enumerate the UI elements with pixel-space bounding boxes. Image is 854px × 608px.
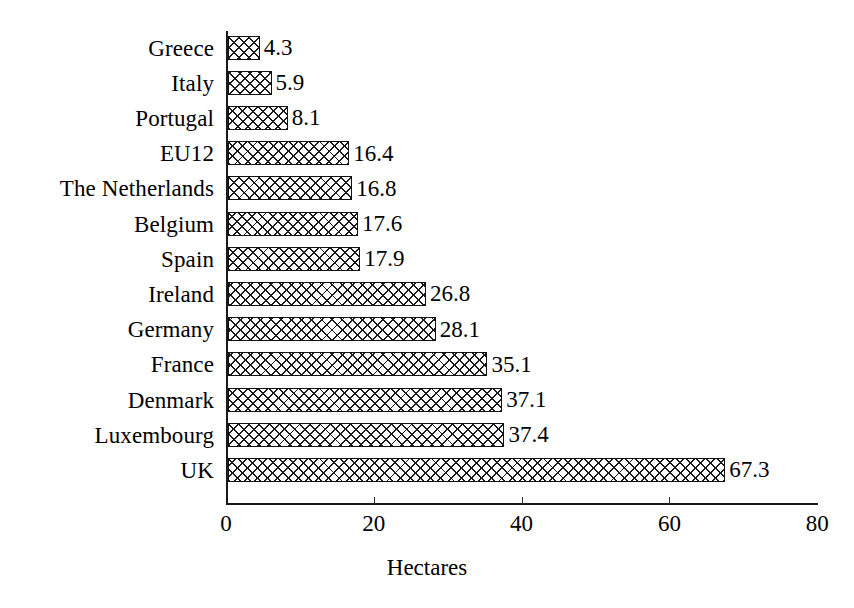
category-label: Greece <box>148 36 214 59</box>
bar-row: UK67.3 <box>0 455 854 484</box>
category-label: Spain <box>161 247 214 270</box>
category-label: The Netherlands <box>60 177 214 200</box>
x-axis-tick-label: 40 <box>510 512 533 535</box>
bar-value-label: 37.4 <box>508 423 548 446</box>
bar-value-label: 28.1 <box>440 318 480 341</box>
bar <box>228 176 352 200</box>
bar-with-value: 8.1 <box>228 106 321 130</box>
bar-value-label: 17.9 <box>364 247 404 270</box>
category-label: Luxembourg <box>95 423 214 446</box>
bar-row: France35.1 <box>0 350 854 379</box>
category-label: Germany <box>128 318 214 341</box>
category-label: Denmark <box>128 388 214 411</box>
bar-with-value: 28.1 <box>228 317 480 341</box>
bar-row: Italy5.9 <box>0 68 854 97</box>
bar-row: Luxembourg37.4 <box>0 420 854 449</box>
bar-with-value: 16.4 <box>228 141 393 165</box>
bar-with-value: 5.9 <box>228 71 304 95</box>
bar-row: Ireland26.8 <box>0 279 854 308</box>
bar-with-value: 37.1 <box>228 388 546 412</box>
bar <box>228 212 358 236</box>
bar-row: Spain17.9 <box>0 244 854 273</box>
bar-with-value: 16.8 <box>228 176 396 200</box>
category-label: UK <box>181 458 214 481</box>
bar-row: The Netherlands16.8 <box>0 174 854 203</box>
bar-with-value: 37.4 <box>228 423 549 447</box>
category-label: Belgium <box>134 212 214 235</box>
category-label: France <box>151 353 214 376</box>
bar-value-label: 8.1 <box>292 106 321 129</box>
x-axis-tick-label: 80 <box>806 512 829 535</box>
bar <box>228 458 725 482</box>
bar <box>228 282 426 306</box>
x-axis-title: Hectares <box>0 556 854 579</box>
category-label: EU12 <box>160 142 214 165</box>
bar <box>228 423 504 447</box>
bar <box>228 71 272 95</box>
bar-with-value: 35.1 <box>228 352 532 376</box>
bar-row: Portugal8.1 <box>0 103 854 132</box>
bar-value-label: 17.6 <box>362 212 402 235</box>
bar-value-label: 5.9 <box>276 71 305 94</box>
x-axis-tick-mark <box>522 497 523 504</box>
bar-row: Germany28.1 <box>0 315 854 344</box>
category-label: Italy <box>171 71 214 94</box>
bar-with-value: 67.3 <box>228 458 770 482</box>
bar-chart: Greece4.3Italy5.9Portugal8.1EU1216.4The … <box>0 0 854 608</box>
bar-with-value: 4.3 <box>228 36 293 60</box>
bar <box>228 36 260 60</box>
bar <box>228 106 288 130</box>
bar <box>228 352 487 376</box>
bar-value-label: 67.3 <box>729 458 769 481</box>
x-axis-tick-mark <box>669 497 670 504</box>
x-axis-tick-label: 20 <box>362 512 385 535</box>
plot-area: Greece4.3Italy5.9Portugal8.1EU1216.4The … <box>0 0 854 608</box>
bar-value-label: 35.1 <box>491 353 531 376</box>
bar <box>228 317 436 341</box>
category-label: Portugal <box>135 106 214 129</box>
bar-value-label: 16.4 <box>353 142 393 165</box>
x-axis-tick-mark <box>374 497 375 504</box>
x-axis-tick-label: 0 <box>220 512 232 535</box>
bar-value-label: 37.1 <box>506 388 546 411</box>
bar-value-label: 16.8 <box>356 177 396 200</box>
bar-row: Belgium17.6 <box>0 209 854 238</box>
bar-with-value: 17.6 <box>228 212 402 236</box>
bar-value-label: 26.8 <box>430 282 470 305</box>
bar-value-label: 4.3 <box>264 36 293 59</box>
bar <box>228 388 502 412</box>
bar <box>228 141 349 165</box>
x-axis-tick-label: 60 <box>658 512 681 535</box>
bar-row: Denmark37.1 <box>0 385 854 414</box>
bar-with-value: 17.9 <box>228 247 405 271</box>
bar-row: EU1216.4 <box>0 139 854 168</box>
bar-row: Greece4.3 <box>0 33 854 62</box>
bar <box>228 247 360 271</box>
category-label: Ireland <box>148 282 214 305</box>
bar-with-value: 26.8 <box>228 282 470 306</box>
